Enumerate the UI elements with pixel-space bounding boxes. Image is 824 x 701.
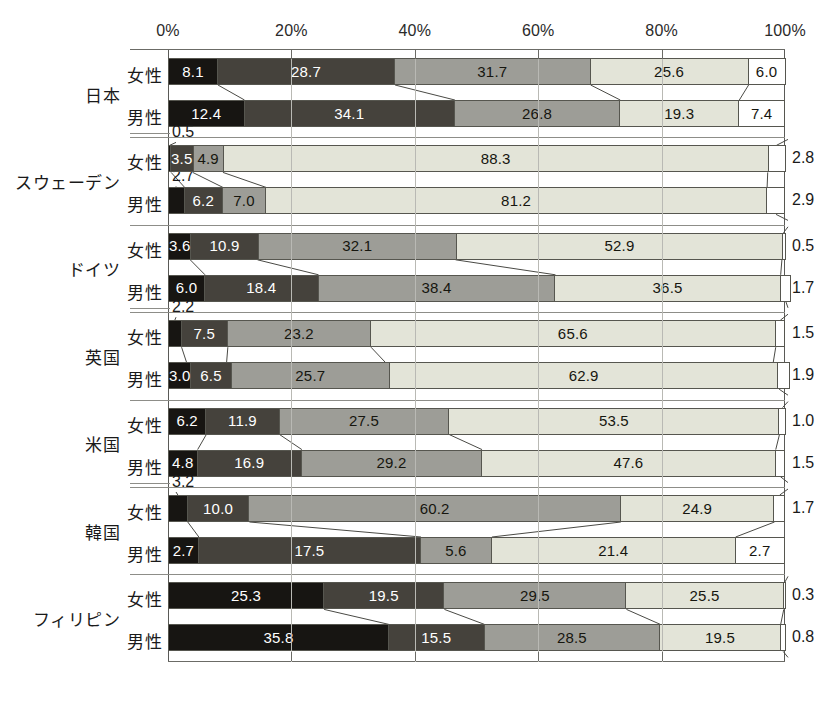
bar-segment: 31.7 xyxy=(395,58,591,85)
bar-segment: 28.5 xyxy=(485,624,661,651)
bar-segment: 4.9 xyxy=(194,145,224,172)
segment-value-label: 60.2 xyxy=(420,501,450,517)
bar-segment: 29.2 xyxy=(302,450,482,477)
x-axis-tick-label: 100% xyxy=(764,22,806,40)
bar-segment: 25.7 xyxy=(232,362,391,389)
bar-segment: 2.2 xyxy=(168,320,182,347)
segment-value-label: 3.6 xyxy=(169,238,190,254)
sex-label: 女性 xyxy=(112,62,162,87)
tick-mark xyxy=(662,652,663,661)
gridline xyxy=(538,50,539,662)
segment-value-label: 7.0 xyxy=(233,193,254,209)
segment-value-label: 81.2 xyxy=(501,193,531,209)
bar-segment: 23.2 xyxy=(228,320,371,347)
segment-value-label: 6.0 xyxy=(756,64,777,80)
bar-segment: 35.8 xyxy=(168,624,389,651)
group-separator xyxy=(130,225,785,226)
bar-segment: 88.3 xyxy=(224,145,769,172)
bar-segment: 15.5 xyxy=(389,624,485,651)
segment-value-label: 6.2 xyxy=(193,193,214,209)
stacked-bar: 2.27.523.265.61.5 xyxy=(168,320,785,347)
tick-mark xyxy=(291,652,292,661)
stacked-bar: 2.76.27.081.22.9 xyxy=(168,187,785,214)
gridline xyxy=(415,50,416,662)
stacked-bar: 25.319.529.525.50.3 xyxy=(168,582,785,609)
sex-label: 女性 xyxy=(112,586,162,611)
segment-value-label: 25.6 xyxy=(654,64,684,80)
gridline xyxy=(662,50,663,662)
bar-segment: 0.5 xyxy=(783,233,786,260)
segment-value-label: 6.2 xyxy=(176,413,197,429)
country-group: スウェーデン女性0.53.54.988.32.8男性2.76.27.081.22… xyxy=(0,137,824,224)
bar-segment: 19.5 xyxy=(660,624,780,651)
segment-value-label: 4.9 xyxy=(197,151,218,167)
bar-segment: 25.5 xyxy=(626,582,783,609)
x-axis-tick-label: 60% xyxy=(522,22,555,40)
segment-value-label: 38.4 xyxy=(421,280,451,296)
group-separator xyxy=(130,487,785,488)
bar-segment: 7.0 xyxy=(223,187,266,214)
stacked-bar: 35.815.528.519.50.8 xyxy=(168,624,785,651)
bar-segment: 1.5 xyxy=(776,320,785,347)
bar-segment: 1.5 xyxy=(776,450,785,477)
bar-segment: 2.8 xyxy=(769,145,786,172)
bar-segment: 6.2 xyxy=(168,408,206,435)
country-group: フィリピン女性25.319.529.525.50.3男性35.815.528.5… xyxy=(0,574,824,661)
tick-mark xyxy=(538,50,539,59)
bar-segment: 52.9 xyxy=(457,233,783,260)
bar-segment: 1.0 xyxy=(779,408,785,435)
bar-segment: 10.0 xyxy=(188,495,250,522)
segment-value-label: 6.0 xyxy=(176,280,197,296)
segment-value-label: 3.0 xyxy=(169,368,190,384)
segment-value-label: 18.4 xyxy=(246,280,276,296)
bar-segment: 29.5 xyxy=(444,582,626,609)
bar-segment: 17.5 xyxy=(199,537,421,564)
stacked-bar: 6.018.438.436.51.7 xyxy=(168,275,785,302)
group-separator xyxy=(130,574,785,575)
country-group: ドイツ女性3.610.932.152.90.5男性6.018.438.436.5… xyxy=(0,225,824,312)
x-axis-tick-label: 20% xyxy=(275,22,308,40)
segment-value-label: 35.8 xyxy=(263,630,293,646)
segment-value-label: 16.9 xyxy=(234,455,264,471)
stacked-bar: 3.06.525.762.91.9 xyxy=(168,362,785,389)
bar-segment: 2.7 xyxy=(736,537,785,564)
bar-segment: 1.7 xyxy=(781,275,791,302)
segment-value-label: 23.2 xyxy=(284,326,314,342)
stacked-bar: 12.434.126.819.37.4 xyxy=(168,100,785,127)
segment-value-label: 24.9 xyxy=(682,501,712,517)
stacked-bar: 2.717.55.621.42.7 xyxy=(168,537,785,564)
sex-label: 女性 xyxy=(112,499,162,524)
tick-mark xyxy=(538,652,539,661)
leader-rule xyxy=(130,133,170,134)
bar-segment: 19.3 xyxy=(620,100,739,127)
segment-value-label: 19.5 xyxy=(705,630,735,646)
bar-segment: 53.5 xyxy=(449,408,779,435)
leader-rule xyxy=(130,308,170,309)
segment-value-label: 62.9 xyxy=(569,368,599,384)
x-axis-tick-labels: 0%20%40%60%80%100% xyxy=(0,22,824,44)
segment-value-label: 2.7 xyxy=(173,543,194,559)
segment-value-label: 19.3 xyxy=(664,106,694,122)
segment-value-label: 8.1 xyxy=(182,64,203,80)
bar-segment: 3.5 xyxy=(171,145,193,172)
tick-mark xyxy=(291,50,292,59)
segment-value-label: 2.7 xyxy=(749,543,770,559)
bar-segment: 11.9 xyxy=(206,408,279,435)
stacked-bar-chart: 0%20%40%60%80%100% 日本女性8.128.731.725.66.… xyxy=(0,0,824,701)
segment-value-label: 36.5 xyxy=(653,280,683,296)
segment-value-label: 53.5 xyxy=(599,413,629,429)
segment-value-label: 15.5 xyxy=(421,630,451,646)
stacked-bar: 3.210.060.224.91.7 xyxy=(168,495,785,522)
segment-value-label: 4.8 xyxy=(172,455,193,471)
bar-segment: 65.6 xyxy=(371,320,776,347)
bar-segment: 0.8 xyxy=(781,624,786,651)
segment-value-label: 7.4 xyxy=(751,106,772,122)
sex-label: 男性 xyxy=(112,191,162,216)
segment-value-label: 65.6 xyxy=(558,326,588,342)
segment-value-label: 19.5 xyxy=(369,588,399,604)
country-label: フィリピン xyxy=(33,606,121,631)
sex-label: 女性 xyxy=(112,149,162,174)
country-label: スウェーデン xyxy=(15,169,120,194)
stacked-bar: 4.816.929.247.61.5 xyxy=(168,450,785,477)
segment-value-label: 7.5 xyxy=(193,326,214,342)
